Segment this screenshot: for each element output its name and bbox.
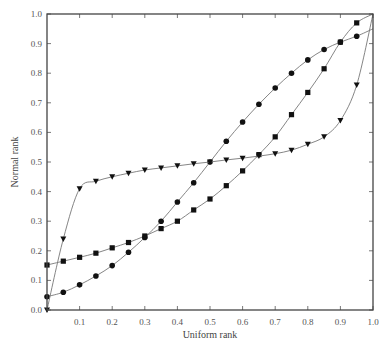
square-marker [159, 226, 164, 231]
triangle-marker [60, 236, 66, 242]
square-marker [322, 66, 327, 71]
y-tick-label: 0.4 [31, 187, 43, 197]
y-tick-label: 0.0 [31, 305, 43, 315]
plot-area [44, 14, 373, 313]
triangle-marker [337, 118, 343, 124]
square-marker [224, 183, 229, 188]
y-tick-label: 0.3 [31, 216, 43, 226]
square-marker [93, 251, 98, 256]
square-marker [273, 134, 278, 139]
square-marker [191, 207, 196, 212]
circle-marker [158, 218, 164, 224]
circle-marker [321, 47, 327, 53]
x-tick-label: 1.0 [367, 317, 379, 327]
x-axis-title: Uniform rank [183, 329, 238, 340]
square-marker [289, 112, 294, 117]
circle-marker [256, 101, 262, 107]
circle-marker [109, 263, 115, 269]
square-marker [126, 240, 131, 245]
x-tick-label: 0.4 [172, 317, 184, 327]
x-tick-label: 0.5 [204, 317, 216, 327]
square-marker [110, 245, 115, 250]
y-tick-label: 0.5 [31, 157, 43, 167]
x-tick-label: 0.7 [270, 317, 282, 327]
circle-marker [175, 199, 181, 205]
x-tick-label: 0.1 [74, 317, 85, 327]
circle-marker [61, 289, 67, 295]
y-tick-label: 0.9 [31, 39, 43, 49]
chart: 0.10.20.30.40.50.60.70.80.91.0 0.00.10.2… [0, 0, 386, 346]
circle-marker [240, 119, 246, 125]
y-tick-label: 0.6 [31, 127, 43, 137]
y-axis-ticks: 0.00.10.20.30.40.50.60.70.80.91.0 [31, 9, 373, 315]
triangle-marker [354, 83, 360, 89]
circle-marker [77, 282, 83, 288]
circle-marker [354, 33, 360, 39]
circle-marker [93, 273, 99, 279]
square-marker [61, 259, 66, 264]
square-marker [354, 20, 359, 25]
square-marker [305, 90, 310, 95]
circle-marker [224, 138, 230, 144]
square-marker [338, 40, 343, 45]
y-tick-label: 0.8 [31, 68, 43, 78]
x-axis-ticks: 0.10.20.30.40.50.60.70.80.91.0 [74, 14, 379, 327]
x-tick-label: 0.3 [139, 317, 151, 327]
triangle-marker [305, 142, 311, 148]
x-tick-label: 0.8 [302, 317, 314, 327]
triangle-marker [77, 186, 83, 192]
square-marker [175, 219, 180, 224]
triangle-marker [321, 134, 327, 140]
x-tick-label: 0.6 [237, 317, 249, 327]
circle-marker [126, 249, 132, 255]
y-tick-label: 0.2 [31, 246, 42, 256]
square-marker [240, 168, 245, 173]
circle-marker [191, 180, 197, 186]
circle-marker [272, 85, 278, 91]
square-marker [142, 233, 147, 238]
square-marker [77, 255, 82, 260]
circle-marker [289, 70, 295, 76]
y-axis-title: Normal rank [9, 137, 20, 188]
y-tick-label: 1.0 [31, 9, 43, 19]
x-tick-label: 0.2 [107, 317, 118, 327]
y-tick-label: 0.1 [31, 275, 42, 285]
x-tick-label: 0.9 [335, 317, 347, 327]
circle-marker [305, 57, 311, 63]
y-tick-label: 0.7 [31, 98, 43, 108]
square-marker [207, 196, 212, 201]
